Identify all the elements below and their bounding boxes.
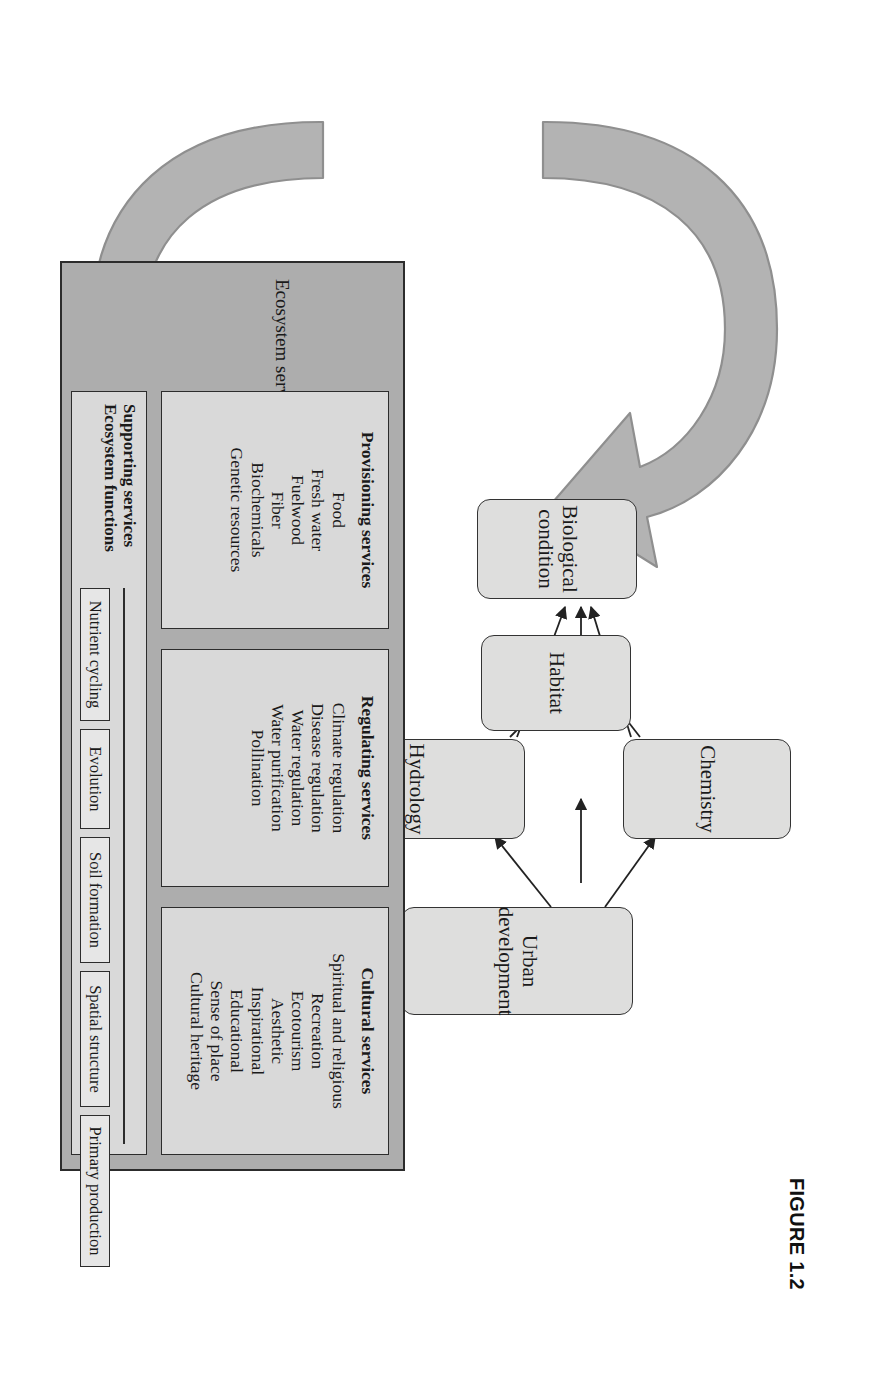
- node-label-habitat: Habitat: [544, 652, 568, 714]
- service-item: Cultural heritage: [186, 916, 206, 1146]
- function-label: Spatial structure: [85, 985, 105, 1093]
- service-item: Water purification: [267, 658, 287, 878]
- service-item: Biochemicals: [247, 400, 267, 620]
- function-box-spatial-structure[interactable]: Spatial structure: [80, 971, 110, 1107]
- service-item: Spiritual and religious: [328, 916, 348, 1146]
- supporting-services-band: Supporting services Ecosystem functions …: [71, 391, 147, 1155]
- function-label: Primary production: [85, 1126, 105, 1255]
- service-item: Water regulation: [287, 658, 307, 878]
- service-header-cultural: Cultural services: [357, 916, 377, 1146]
- ecosystem-services-panel: Ecosystem services Provisioning services…: [60, 261, 405, 1171]
- service-item: Fresh water: [308, 400, 328, 620]
- link-urban-to-chemistry: [605, 837, 655, 907]
- service-item: Disease regulation: [308, 658, 328, 878]
- figure-stage: Urban development Chemistry Hydrology Ha…: [43, 47, 843, 1347]
- supporting-line-2: Ecosystem functions: [100, 404, 119, 552]
- function-label: Nutrient cycling: [85, 600, 105, 708]
- node-label-hydrology: Hydrology: [404, 743, 428, 834]
- service-item: Educational: [226, 916, 246, 1146]
- node-label-chemistry: Chemistry: [695, 745, 719, 833]
- service-item: Recreation: [308, 916, 328, 1146]
- service-header-provisioning: Provisioning services: [357, 400, 377, 620]
- service-box-regulating[interactable]: Regulating services Climate regulation D…: [161, 649, 389, 887]
- service-item: Ecotourism: [287, 916, 307, 1146]
- service-item: Climate regulation: [328, 658, 348, 878]
- node-habitat[interactable]: Habitat: [481, 635, 631, 731]
- service-box-provisioning[interactable]: Provisioning services Food Fresh water F…: [161, 391, 389, 629]
- functions-connector-rule: [123, 588, 125, 1144]
- supporting-line-1: Supporting services: [120, 404, 139, 547]
- function-label: Evolution: [85, 746, 105, 811]
- node-biological-condition[interactable]: Biological condition: [477, 499, 637, 599]
- supporting-services-label: Supporting services Ecosystem functions: [100, 404, 139, 552]
- node-label-biological-condition: Biological condition: [533, 505, 580, 593]
- service-header-regulating: Regulating services: [357, 658, 377, 878]
- function-box-evolution[interactable]: Evolution: [80, 729, 110, 829]
- service-item: Fuelwood: [287, 400, 307, 620]
- service-item: Pollination: [247, 658, 267, 878]
- function-box-nutrient-cycling[interactable]: Nutrient cycling: [80, 588, 110, 721]
- service-item: Inspirational: [247, 916, 267, 1146]
- node-urban-development[interactable]: Urban development: [401, 907, 633, 1015]
- node-label-urban-development: Urban development: [493, 906, 540, 1014]
- service-item: Food: [328, 400, 348, 620]
- function-box-soil-formation[interactable]: Soil formation: [80, 837, 110, 963]
- function-label: Soil formation: [85, 852, 105, 948]
- link-urban-to-hydrology: [495, 837, 551, 907]
- function-box-primary-production[interactable]: Primary production: [80, 1115, 110, 1267]
- service-item: Aesthetic: [267, 916, 287, 1146]
- service-item: Fiber: [267, 400, 287, 620]
- node-chemistry[interactable]: Chemistry: [623, 739, 791, 839]
- service-item: Sense of place: [206, 916, 226, 1146]
- service-item: Genetic resources: [226, 400, 246, 620]
- service-box-cultural[interactable]: Cultural services Spiritual and religiou…: [161, 907, 389, 1155]
